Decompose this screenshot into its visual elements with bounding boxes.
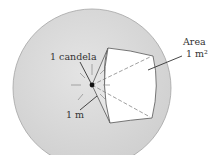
label-area-word: Area	[183, 37, 206, 47]
area-patch	[104, 48, 156, 123]
diagram-canvas	[0, 0, 223, 155]
label-source: 1 candela	[50, 52, 97, 62]
label-area-value: 1 m²	[186, 49, 208, 59]
label-radius: 1 m	[66, 110, 84, 120]
point-source	[90, 83, 95, 88]
